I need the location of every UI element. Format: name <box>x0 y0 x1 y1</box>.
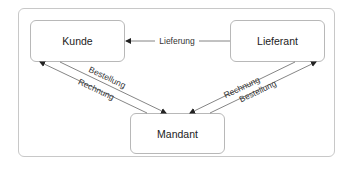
edge-lieferung: Lieferung <box>126 36 230 46</box>
edge-kunde-mandant-bestellung: Bestellung <box>60 62 166 113</box>
edges-layer: Lieferung Bestellung Rechnung Rechnung B… <box>0 0 351 176</box>
edge-lieferant-mandant-rechnung: Rechnung <box>190 62 295 113</box>
edge-lieferung-label: Lieferung <box>159 36 195 46</box>
edge-mandant-lieferant-bestellung: Bestellung <box>210 62 316 113</box>
